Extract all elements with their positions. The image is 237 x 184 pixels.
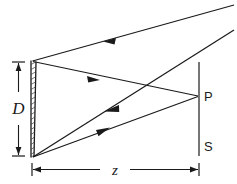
label-diameter: D	[11, 99, 25, 118]
arrowhead-right-up	[96, 128, 110, 137]
ray-top-incoming	[33, 5, 235, 61]
arrowhead-left-dim	[33, 167, 41, 173]
label-screen-s: S	[204, 139, 213, 154]
ray-diagram-figure: D z P S	[0, 0, 237, 184]
arrowhead-right-dim	[190, 167, 198, 173]
label-distance: z	[111, 162, 118, 178]
hatched-aperture	[31, 61, 36, 158]
ray-aperture-top-to-p	[33, 62, 198, 97]
arrowhead-up	[16, 63, 22, 71]
aperture-right-edge	[34, 62, 36, 158]
arrowhead-down-left	[104, 105, 119, 112]
diagram-canvas: D z P S	[0, 0, 237, 184]
distance-dimension: z	[32, 162, 199, 178]
diameter-dimension: D	[11, 62, 25, 156]
arrowhead-right	[87, 76, 100, 83]
arrowhead-down	[16, 147, 22, 155]
label-point-p: P	[204, 89, 213, 104]
